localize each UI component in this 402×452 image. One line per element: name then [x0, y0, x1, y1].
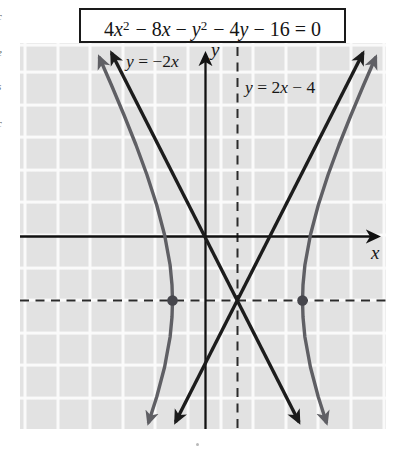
- equation-text: − 4: [208, 18, 239, 40]
- equation-text: 4: [104, 18, 114, 40]
- x-axis-label: x: [371, 242, 379, 264]
- vertex-dot-right: [297, 295, 308, 306]
- label-text: x: [280, 77, 288, 97]
- equation-box: 4x2 − 8x − y2 − 4y − 16 = 0: [79, 8, 346, 43]
- label-text: − 4: [288, 77, 315, 97]
- hyperbola-left-branch: [99, 57, 172, 423]
- equation-text: − 8: [130, 18, 161, 40]
- equation-text: − 16 = 0: [248, 18, 321, 40]
- figure-page: c e s c 4x2 − 8x − y2 − 4y − 16 = 0: [0, 0, 402, 452]
- hyperbola-right-branch: [303, 57, 376, 423]
- label-text: = −2: [134, 51, 171, 71]
- label-text: y: [245, 77, 253, 97]
- equation-text: x: [114, 18, 123, 40]
- asymptote-label-y-neg-2x: y = −2x: [126, 51, 179, 72]
- equation-text: y: [192, 18, 201, 40]
- vertex-dot-left: [167, 295, 178, 306]
- label-text: x: [171, 51, 179, 71]
- equation-text: x: [162, 18, 171, 40]
- equation-text: −: [171, 18, 192, 40]
- asymptote-label-y-2x-minus-4: y = 2x − 4: [245, 77, 315, 98]
- label-text: = 2: [253, 77, 280, 97]
- graph-canvas: [0, 0, 402, 452]
- label-text: y: [126, 51, 134, 71]
